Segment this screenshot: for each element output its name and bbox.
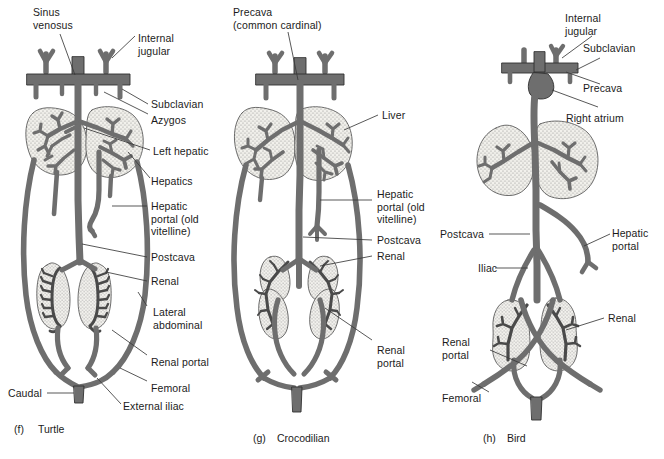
crocodilian-vessel-group xyxy=(234,53,360,412)
label-bird-precava: Precava xyxy=(583,82,622,95)
turtle-hepatics-descend-b xyxy=(110,176,111,196)
label-turtle-renal: Renal xyxy=(151,275,179,288)
label-turtle-internal-jugular: Internal jugular xyxy=(138,32,174,57)
turtle-lateral-abdominal-right xyxy=(113,162,147,372)
turtle-femoral-left xyxy=(62,368,68,374)
croc-hepatic-portal xyxy=(317,150,319,226)
label-croc-hepatic-portal: Hepatic portal (old vitelline) xyxy=(377,188,425,226)
label-croc-precava: Precava (common cardinal) xyxy=(233,6,322,31)
turtle-renal-efferent-right xyxy=(81,261,95,269)
label-bird-renal-portal: Renal portal xyxy=(442,336,470,361)
turtle-external-iliac-right xyxy=(88,368,95,375)
croc-pelvic-right xyxy=(300,378,330,388)
turtle-renal-portal-right xyxy=(88,328,97,368)
croc-hepatics-descend-a xyxy=(260,178,262,200)
label-bird-hepatic-portal: Hepatic portal xyxy=(612,227,648,252)
bird-iliac-right xyxy=(538,250,560,300)
label-bird-iliac: Iliac xyxy=(478,262,497,275)
label-turtle-renal-portal: Renal portal xyxy=(151,356,209,369)
label-turtle-hepatics: Hepatics xyxy=(151,175,193,188)
anatomical-figure: Sinus venosus Internal jugular Subclavia… xyxy=(0,0,664,459)
caption-crocodilian-name: Crocodilian xyxy=(277,432,330,444)
label-turtle-postcava: Postcava xyxy=(151,251,195,264)
caption-turtle-letter: (f) xyxy=(14,423,24,435)
bird-liver-right xyxy=(535,121,598,199)
vascular-diagram-svg xyxy=(0,0,664,459)
label-bird-renal: Renal xyxy=(608,312,636,325)
bird-femoral-left xyxy=(474,384,484,390)
croc-postcava xyxy=(299,83,300,262)
turtle-hepatic-portal-tip xyxy=(92,231,95,236)
label-croc-postcava: Postcava xyxy=(377,234,421,247)
bird-hepatic-portal xyxy=(540,205,588,262)
bird-caudal xyxy=(531,397,542,420)
label-turtle-sinus-venosus: Sinus venosus xyxy=(33,6,73,31)
label-bird-femoral: Femoral xyxy=(442,392,481,405)
label-croc-renal: Renal xyxy=(377,250,405,263)
label-turtle-femoral: Femoral xyxy=(151,382,190,395)
label-turtle-lateral-abdominal: Lateral abdominal xyxy=(153,306,202,331)
label-turtle-azygos: Azygos xyxy=(151,114,186,127)
bird-hepatic-portal-branch xyxy=(582,262,596,272)
label-turtle-subclavian: Subclavian xyxy=(151,98,203,111)
turtle-renal-portal-left xyxy=(57,328,68,368)
label-bird-subclavian: Subclavian xyxy=(583,42,635,55)
turtle-vessel-group xyxy=(24,51,148,403)
turtle-hepatics-descend-a xyxy=(54,172,57,214)
bird-vessel-group xyxy=(474,46,600,420)
caption-bird-name: Bird xyxy=(507,432,526,444)
bird-precava-center xyxy=(534,52,545,72)
bird-femoral-right xyxy=(590,384,600,390)
turtle-caudal xyxy=(74,386,84,403)
label-turtle-external-iliac: External iliac xyxy=(123,400,184,413)
label-turtle-hepatic-portal: Hepatic portal (old vitelline) xyxy=(151,200,199,238)
turtle-postcava xyxy=(78,83,80,262)
bird-postcava xyxy=(534,94,537,300)
label-bird-postcava: Postcava xyxy=(440,228,484,241)
caption-turtle-name: Turtle xyxy=(38,423,64,435)
label-croc-renal-portal: Renal portal xyxy=(377,344,405,369)
label-turtle-left-hepatic: Left hepatic xyxy=(153,145,209,158)
turtle-pelvic-left xyxy=(56,372,78,387)
bird-iliac-left xyxy=(512,250,534,300)
turtle-renal-efferent-left xyxy=(62,261,79,270)
caption-bird-letter: (h) xyxy=(483,432,496,444)
label-turtle-caudal: Caudal xyxy=(8,387,42,400)
label-bird-internal-jugular: Internal jugular xyxy=(565,12,601,37)
croc-pelvic-left xyxy=(264,378,294,388)
label-bird-right-atrium: Right atrium xyxy=(566,112,624,125)
croc-caudal xyxy=(292,387,302,412)
label-croc-liver: Liver xyxy=(382,109,405,122)
caption-crocodilian-letter: (g) xyxy=(253,432,266,444)
